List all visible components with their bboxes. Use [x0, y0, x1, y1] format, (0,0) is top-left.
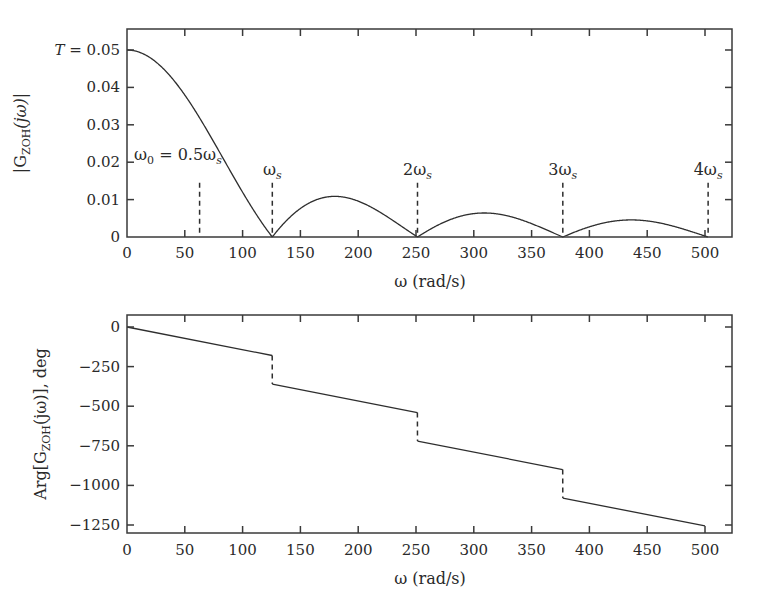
phase-segment — [272, 384, 417, 413]
y-tick-label: −1000 — [69, 476, 120, 494]
phase-plot-frame — [127, 315, 732, 533]
y-tick-label: T = 0.05 — [54, 41, 120, 59]
x-tick-label: 0 — [122, 244, 132, 262]
sampling-frequency-markers: ω0 = 0.5ωsωs2ωs3ωs4ωs — [134, 145, 723, 236]
phase-segment — [127, 327, 272, 356]
phase-segment — [563, 498, 705, 526]
x-tick-label: 250 — [402, 541, 431, 559]
magnitude-curve — [127, 50, 708, 237]
x-tick-label: 500 — [691, 541, 720, 559]
x-tick-label: 50 — [175, 541, 194, 559]
magnitude-plot-frame — [127, 29, 732, 237]
phase-axis-ticks: 0501001502002503003504004505000−250−500−… — [69, 315, 732, 559]
x-tick-label: 150 — [286, 541, 315, 559]
y-tick-label: 0 — [110, 228, 120, 246]
magnitude-y-axis-label: |GZOH(jω)| — [11, 93, 33, 173]
omega0-annotation: ω0 = 0.5ωs — [134, 145, 222, 167]
x-tick-label: 0 — [122, 541, 132, 559]
x-tick-label: 400 — [575, 244, 604, 262]
marker-label-1: ωs — [263, 160, 282, 182]
magnitude-plot: ω0 = 0.5ωsωs2ωs3ωs4ωs 050100150200250300… — [11, 29, 732, 291]
phase-segment — [418, 441, 563, 470]
x-tick-label: 350 — [517, 541, 546, 559]
y-tick-label: −1250 — [69, 516, 120, 534]
x-tick-label: 250 — [402, 244, 431, 262]
phase-y-axis-label: Arg[GZOH(jω)], deg — [31, 348, 53, 501]
marker-label-4: 4ωs — [694, 160, 723, 182]
x-tick-label: 200 — [344, 541, 373, 559]
x-tick-label: 200 — [344, 244, 373, 262]
phase-plot: 0501001502002503003504004505000−250−500−… — [31, 315, 732, 588]
x-tick-label: 300 — [459, 244, 488, 262]
y-tick-label: 0.03 — [87, 116, 120, 134]
x-tick-label: 500 — [691, 244, 720, 262]
y-tick-label: −750 — [79, 437, 120, 455]
y-tick-label: −250 — [79, 358, 120, 376]
x-tick-label: 300 — [459, 541, 488, 559]
x-tick-label: 100 — [228, 541, 257, 559]
phase-curve — [127, 327, 705, 526]
marker-label-2: 2ωs — [403, 160, 432, 182]
y-tick-label: 0.01 — [87, 191, 120, 209]
x-tick-label: 150 — [286, 244, 315, 262]
magnitude-line — [127, 50, 708, 237]
y-tick-label: 0.02 — [87, 153, 120, 171]
y-tick-label: 0.04 — [87, 78, 120, 96]
zoh-frequency-response-figure: ω0 = 0.5ωsωs2ωs3ωs4ωs 050100150200250300… — [0, 0, 758, 615]
marker-label-3: 3ωs — [548, 160, 577, 182]
phase-x-axis-label: ω (rad/s) — [394, 569, 466, 588]
magnitude-x-axis-label: ω (rad/s) — [394, 272, 466, 291]
y-tick-label: −500 — [79, 397, 120, 415]
y-tick-label: 0 — [110, 318, 120, 336]
x-tick-label: 450 — [633, 244, 662, 262]
x-tick-label: 100 — [228, 244, 257, 262]
x-tick-label: 50 — [175, 244, 194, 262]
x-tick-label: 400 — [575, 541, 604, 559]
x-tick-label: 450 — [633, 541, 662, 559]
x-tick-label: 350 — [517, 244, 546, 262]
